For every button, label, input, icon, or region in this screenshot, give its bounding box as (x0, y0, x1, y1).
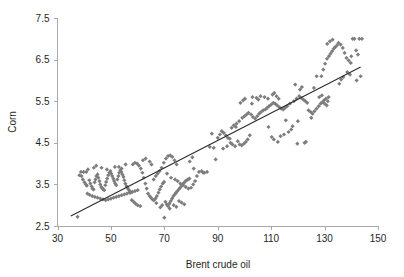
data-point (321, 67, 325, 71)
data-point (190, 155, 194, 159)
data-point (140, 171, 144, 175)
data-point (354, 48, 358, 52)
data-point (236, 139, 240, 143)
data-point (360, 37, 364, 41)
data-point (312, 86, 316, 90)
y-tick-label: 2.5 (36, 221, 50, 232)
x-tick-label: 50 (105, 233, 117, 244)
data-point (192, 166, 196, 170)
data-point (337, 82, 341, 86)
chart-canvas: 2.53.54.55.56.57.5 30507090110130150 Bre… (0, 0, 404, 277)
data-point (355, 78, 359, 82)
x-tick-label: 130 (316, 233, 333, 244)
y-tick-label: 3.5 (36, 179, 50, 190)
data-point (169, 176, 173, 180)
data-point (218, 132, 222, 136)
data-point (195, 174, 199, 178)
data-point (75, 215, 79, 219)
data-point (97, 179, 101, 183)
data-point (214, 157, 218, 161)
data-point (323, 62, 327, 66)
data-point (258, 94, 262, 98)
data-point (152, 177, 156, 181)
data-point (103, 183, 107, 187)
data-point (341, 46, 345, 50)
data-point (113, 165, 117, 169)
trendline (71, 67, 361, 216)
y-axis-ticks: 2.53.54.55.56.57.5 (36, 13, 58, 232)
data-point (122, 178, 126, 182)
data-point (278, 134, 282, 138)
plot-area: 2.53.54.55.56.57.5 30507090110130150 (36, 13, 387, 245)
data-point (191, 182, 195, 186)
data-point (359, 74, 363, 78)
data-point (325, 42, 329, 46)
y-axis-title: Corn (7, 111, 18, 133)
data-point (165, 171, 169, 175)
x-tick-label: 90 (212, 233, 224, 244)
data-point (343, 51, 347, 55)
y-tick-label: 7.5 (36, 13, 50, 24)
x-tick-label: 150 (370, 233, 387, 244)
data-point (250, 102, 254, 106)
data-point (293, 82, 297, 86)
data-point (124, 162, 128, 166)
data-point (162, 216, 166, 220)
data-point (188, 159, 192, 163)
data-point (356, 53, 360, 57)
data-point (295, 142, 299, 146)
data-point (210, 132, 214, 136)
data-point (87, 178, 91, 182)
data-points (75, 37, 364, 220)
data-point (105, 167, 109, 171)
data-point (266, 125, 270, 129)
x-tick-label: 110 (263, 233, 279, 244)
data-point (282, 132, 286, 136)
data-point (193, 179, 197, 183)
data-point (225, 144, 229, 148)
x-axis-title: Brent crude oil (186, 259, 250, 270)
data-point (314, 74, 318, 78)
data-point (221, 147, 225, 151)
y-tick-label: 5.5 (36, 96, 50, 107)
y-tick-label: 4.5 (36, 137, 50, 148)
x-tick-label: 30 (52, 233, 64, 244)
data-point (104, 180, 108, 184)
data-point (266, 97, 270, 101)
x-tick-label: 70 (159, 233, 171, 244)
data-point (284, 118, 288, 122)
data-point (145, 186, 149, 190)
scatter-chart: 2.53.54.55.56.57.5 30507090110130150 Bre… (0, 0, 404, 277)
data-point (319, 74, 323, 78)
data-point (105, 176, 109, 180)
data-point (143, 181, 147, 185)
x-axis-ticks: 30507090110130150 (52, 226, 387, 244)
data-point (276, 140, 280, 144)
data-point (262, 95, 266, 99)
data-point (116, 174, 120, 178)
data-point (250, 95, 254, 99)
data-point (248, 133, 252, 137)
data-point (237, 119, 241, 123)
data-point (93, 180, 97, 184)
data-point (286, 130, 290, 134)
data-point (162, 161, 166, 165)
data-point (99, 166, 103, 170)
y-tick-label: 6.5 (36, 54, 50, 65)
data-point (309, 116, 313, 120)
data-point (154, 201, 158, 205)
data-point (238, 101, 242, 105)
data-point (296, 119, 300, 123)
data-point (349, 54, 353, 58)
data-point (212, 146, 216, 150)
